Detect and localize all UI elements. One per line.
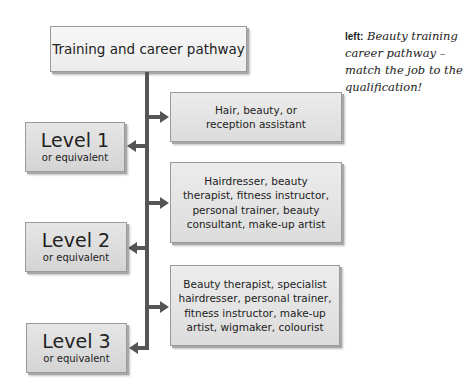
job-box-1: Hair, beauty, or reception assistant bbox=[170, 92, 342, 142]
job-line: Hairdresser, beauty bbox=[204, 174, 308, 189]
job-line: Beauty therapist, specialist bbox=[183, 277, 326, 292]
job-line: therapist, fitness instructor, bbox=[183, 188, 329, 203]
caption-text: Beauty training career pathway – match t… bbox=[345, 29, 463, 94]
job-box-3: Beauty therapist, specialist hairdresser… bbox=[170, 265, 340, 346]
arrow-left-icon bbox=[128, 242, 137, 254]
job-line: artist, wigmaker, colourist bbox=[186, 320, 323, 335]
job-line: consultant, make-up artist bbox=[187, 217, 326, 232]
job-line: hairdresser, personal trainer, bbox=[179, 291, 332, 306]
level-label: Level 3 bbox=[42, 331, 110, 352]
level-label: Level 1 bbox=[41, 130, 109, 151]
level-sublabel: or equivalent bbox=[43, 251, 109, 264]
job-line: Hair, beauty, or bbox=[215, 103, 297, 118]
arrow-left-icon bbox=[127, 140, 136, 152]
connector-to-job-2 bbox=[147, 201, 161, 205]
job-line: reception assistant bbox=[206, 117, 306, 132]
job-line: personal trainer, beauty bbox=[192, 203, 319, 218]
level-3-box: Level 3 or equivalent bbox=[26, 323, 127, 373]
level-sublabel: or equivalent bbox=[42, 151, 108, 164]
connector-to-job-1 bbox=[147, 115, 161, 119]
pathway-title-box: Training and career pathway bbox=[50, 26, 247, 72]
pathway-title: Training and career pathway bbox=[52, 41, 245, 57]
figure-caption: left: Beauty training career pathway – m… bbox=[345, 28, 467, 96]
connector-to-level-3 bbox=[137, 346, 149, 350]
arrow-right-icon bbox=[160, 111, 169, 123]
job-line: fitness instructor, make-up bbox=[184, 306, 326, 321]
level-1-box: Level 1 or equivalent bbox=[25, 122, 125, 172]
job-box-2: Hairdresser, beauty therapist, fitness i… bbox=[170, 162, 342, 243]
level-label: Level 2 bbox=[42, 230, 110, 251]
caption-lead: left: bbox=[345, 31, 363, 42]
arrow-right-icon bbox=[160, 301, 169, 313]
level-sublabel: or equivalent bbox=[43, 352, 109, 365]
arrow-right-icon bbox=[160, 197, 169, 209]
level-2-box: Level 2 or equivalent bbox=[25, 222, 127, 272]
connector-to-job-3 bbox=[147, 305, 161, 309]
arrow-left-icon bbox=[129, 342, 138, 354]
